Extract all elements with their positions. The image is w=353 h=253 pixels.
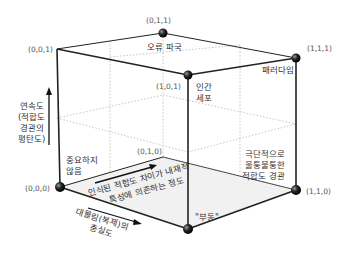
cube-diagram: (0,0,1) (0,1,1) (1,1,1) (1,0,1) (0,1,0) … <box>0 0 353 253</box>
label-unimportant-2: 않음 <box>66 166 82 176</box>
sphere-000 <box>55 182 65 192</box>
label-human-cell-2: 세포 <box>196 93 212 103</box>
vertical-axis-label-2: (적합도 <box>18 112 45 122</box>
label-error-catastrophe: 오류 파국 <box>147 42 182 52</box>
label-paradigm: 패러다임 <box>262 65 294 75</box>
coord-011: (0,1,1) <box>146 16 171 25</box>
coord-111: (1,1,1) <box>307 44 332 53</box>
coord-101: (1,0,1) <box>156 82 181 91</box>
label-rugged-1: 극단적으로 <box>245 149 285 159</box>
coord-010: (0,1,0) <box>137 147 162 156</box>
vertical-axis-label-3: 경관의 <box>20 123 44 133</box>
label-unimportant-1: 중요하지 <box>66 155 98 165</box>
label-drift: "부동" <box>195 212 219 222</box>
sphere-101 <box>184 71 193 80</box>
sphere-110 <box>291 185 301 195</box>
label-human-cell-1: 인간 <box>196 82 212 92</box>
vertical-axis-label-1: 연속도 <box>20 101 44 111</box>
label-rugged-3: 적합도 경관 <box>242 171 285 181</box>
coord-110: (1,1,0) <box>306 187 331 196</box>
coord-000: (0,0,0) <box>25 184 50 193</box>
vertical-axis-arrow <box>46 87 52 145</box>
sphere-111 <box>292 54 301 63</box>
label-rugged-2: 울퉁불퉁한 <box>245 160 285 170</box>
sphere-011 <box>159 29 168 38</box>
sphere-100 <box>183 224 193 234</box>
coord-001: (0,0,1) <box>28 45 53 54</box>
vertical-axis-label-4: 평탄도) <box>18 134 45 144</box>
